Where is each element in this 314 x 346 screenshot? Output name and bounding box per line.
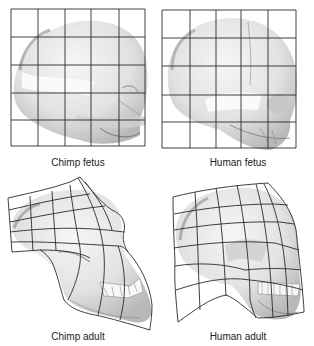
panel-chimp-fetus <box>11 9 147 146</box>
panel-chimp-adult <box>8 177 152 330</box>
label-chimp-adult: Chimp adult <box>8 331 148 342</box>
panel-human-fetus <box>162 10 297 150</box>
label-chimp-fetus: Chimp fetus <box>8 157 148 168</box>
chimp-fetus-skull-illustration <box>14 21 148 144</box>
panel-human-adult <box>173 183 304 322</box>
human-adult-skull-illustration <box>176 188 301 320</box>
skull-grid-comparison-figure: Chimp fetus Human fetus Chimp adult Huma… <box>0 0 314 346</box>
label-human-adult: Human adult <box>168 331 308 342</box>
label-human-fetus: Human fetus <box>168 157 308 168</box>
